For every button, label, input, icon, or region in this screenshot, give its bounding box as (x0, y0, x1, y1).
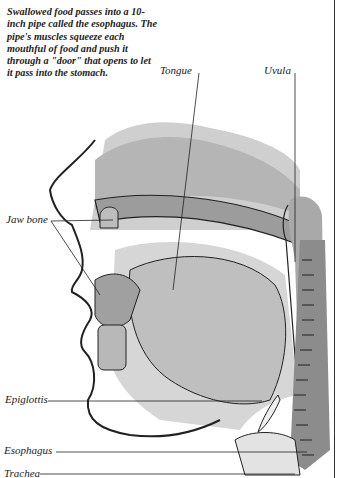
label-epiglottis: Epiglottis (5, 393, 48, 405)
label-trachea: Trachea (4, 467, 40, 478)
label-tongue: Tongue (160, 64, 192, 76)
label-uvula: Uvula (264, 64, 291, 76)
label-jaw-bone: Jaw bone (6, 213, 48, 225)
page-rule (334, 0, 335, 478)
label-esophagus: Esophagus (4, 444, 52, 456)
